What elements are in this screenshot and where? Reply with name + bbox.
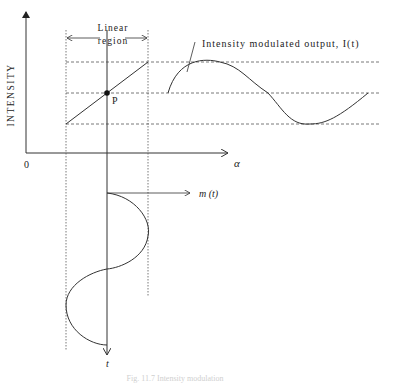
- output-waveform: [168, 60, 368, 124]
- output-label-leader: [187, 42, 195, 72]
- modulation-label: m (t): [199, 188, 219, 200]
- origin-label: 0: [24, 159, 29, 170]
- figure-caption: Fig. 11.7 Intensity modulation: [127, 374, 224, 383]
- y-axis-label: INTENSITY: [6, 63, 16, 126]
- time-axis-label: t: [106, 358, 109, 369]
- operating-point-label: P: [112, 95, 118, 106]
- operating-point: [104, 90, 110, 96]
- reference-lines: [66, 62, 379, 124]
- intensity-modulation-diagram: Linear region P Intensity modulated outp…: [0, 0, 410, 383]
- linear-label-1: Linear: [98, 23, 129, 33]
- linear-label-2: region: [98, 36, 128, 46]
- diagram-canvas: Linear region P Intensity modulated outp…: [0, 0, 410, 383]
- x-axis-label: α: [234, 157, 240, 169]
- output-label: Intensity modulated output, I(t): [202, 38, 360, 50]
